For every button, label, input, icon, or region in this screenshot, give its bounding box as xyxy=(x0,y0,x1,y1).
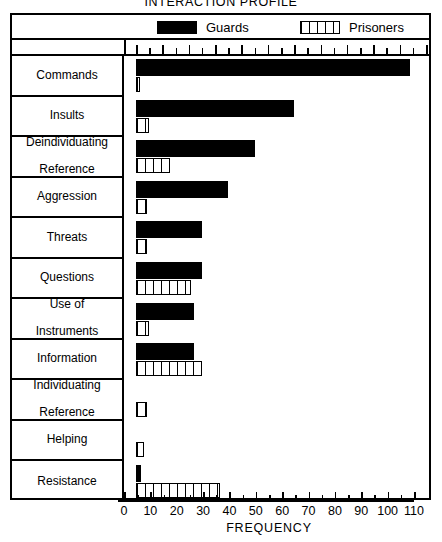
category-label-row: IndividuatingReference xyxy=(12,380,122,421)
category-label: Threats xyxy=(47,231,88,245)
category-label: Aggression xyxy=(37,190,97,204)
top-minor-tick xyxy=(386,48,388,54)
x-major-tick xyxy=(335,492,337,500)
category-label-row: Commands xyxy=(12,56,122,97)
chart-frame: Guards Prisoners CommandsInsultsDeindivi… xyxy=(10,13,431,500)
x-axis-title: FREQUENCY xyxy=(124,521,414,535)
category-label-line: Commands xyxy=(36,69,97,83)
x-tick-label: 0 xyxy=(121,505,128,518)
category-label: Commands xyxy=(36,69,97,83)
category-label: Helping xyxy=(47,433,88,447)
bar-prisoners xyxy=(136,118,149,133)
top-minor-tick xyxy=(334,48,336,54)
x-major-tick xyxy=(229,492,231,500)
category-label-row: Threats xyxy=(12,218,122,259)
top-minor-tick xyxy=(281,48,283,54)
top-tick-strip xyxy=(12,40,429,56)
bar-prisoners xyxy=(136,361,202,376)
bar-prisoners xyxy=(136,321,149,336)
top-minor-tick xyxy=(307,48,309,54)
bar-prisoners xyxy=(136,280,191,295)
top-minor-tick xyxy=(360,48,362,54)
legend: Guards Prisoners xyxy=(12,15,429,40)
bar-prisoners xyxy=(136,199,147,214)
top-major-tick xyxy=(162,45,164,54)
x-major-tick xyxy=(256,492,258,500)
x-minor-tick xyxy=(216,495,218,500)
top-major-tick xyxy=(215,45,217,54)
category-label-line: Questions xyxy=(40,271,94,285)
bar-prisoners xyxy=(136,158,170,173)
category-label-row: Information xyxy=(12,340,122,381)
bar-row xyxy=(126,461,429,502)
bar-guards xyxy=(136,343,194,360)
legend-item-guards: Guards xyxy=(157,19,249,35)
chart-root: INTERACTION PROFILE Guards Prisoners Com… xyxy=(0,0,442,542)
top-major-tick xyxy=(268,45,270,54)
x-tick-label: 110 xyxy=(404,505,424,518)
x-tick-label: 10 xyxy=(143,505,157,518)
bar-prisoners xyxy=(136,402,147,417)
x-minor-tick xyxy=(190,495,192,500)
bar-row xyxy=(126,299,429,340)
bar-row xyxy=(126,56,429,97)
top-major-tick xyxy=(294,45,296,54)
x-major-tick xyxy=(388,492,390,500)
bar-guards xyxy=(136,303,194,320)
x-major-tick xyxy=(150,492,152,500)
x-major-tick xyxy=(177,492,179,500)
category-label-line: Reference xyxy=(26,163,108,177)
category-label-line: Resistance xyxy=(37,475,96,489)
top-major-tick xyxy=(189,45,191,54)
bar-row xyxy=(126,340,429,381)
x-tick-label: 80 xyxy=(328,505,342,518)
x-major-tick xyxy=(414,492,416,500)
top-major-tick xyxy=(321,45,323,54)
bar-row xyxy=(126,97,429,138)
x-minor-tick xyxy=(137,495,139,500)
top-minor-tick xyxy=(176,48,178,54)
x-minor-tick xyxy=(295,495,297,500)
bar-guards xyxy=(136,465,141,482)
category-label: IndividuatingReference xyxy=(33,379,100,420)
top-major-tick xyxy=(136,45,138,54)
category-label-row: Resistance xyxy=(12,461,122,502)
x-major-tick xyxy=(124,492,126,500)
top-minor-tick xyxy=(202,48,204,54)
bar-row xyxy=(126,421,429,462)
legend-item-prisoners: Prisoners xyxy=(300,19,404,35)
top-tick-marks xyxy=(126,40,429,54)
category-label-row: Insults xyxy=(12,97,122,138)
category-label-column: CommandsInsultsDeindividuatingReferenceA… xyxy=(12,56,124,498)
x-major-tick xyxy=(361,492,363,500)
category-label-line: Insults xyxy=(50,109,85,123)
x-major-tick xyxy=(203,492,205,500)
x-tick-label: 40 xyxy=(223,505,237,518)
category-label-row: DeindividuatingReference xyxy=(12,137,122,178)
category-label-line: Aggression xyxy=(37,190,97,204)
top-minor-tick xyxy=(228,48,230,54)
x-tick-label: 20 xyxy=(170,505,184,518)
x-tick-label: 100 xyxy=(377,505,398,518)
x-minor-tick xyxy=(322,495,324,500)
bar-guards xyxy=(136,59,410,76)
top-minor-tick xyxy=(413,48,415,54)
x-tick-label: 70 xyxy=(302,505,316,518)
bar-guards xyxy=(136,262,202,279)
top-major-tick xyxy=(373,45,375,54)
bars-column xyxy=(126,56,429,498)
bar-guards xyxy=(136,181,228,198)
top-major-tick xyxy=(400,45,402,54)
x-tick-label: 50 xyxy=(249,505,263,518)
x-minor-tick xyxy=(348,495,350,500)
category-label: Information xyxy=(37,352,97,366)
category-label: DeindividuatingReference xyxy=(26,136,108,177)
bar-prisoners xyxy=(136,77,140,92)
category-label-line: Instruments xyxy=(36,325,99,339)
x-axis-line xyxy=(118,500,414,502)
bar-row xyxy=(126,380,429,421)
bar-row xyxy=(126,137,429,178)
x-tick-label: 30 xyxy=(196,505,210,518)
bar-guards xyxy=(136,100,294,117)
category-label: Use ofInstruments xyxy=(36,298,99,339)
